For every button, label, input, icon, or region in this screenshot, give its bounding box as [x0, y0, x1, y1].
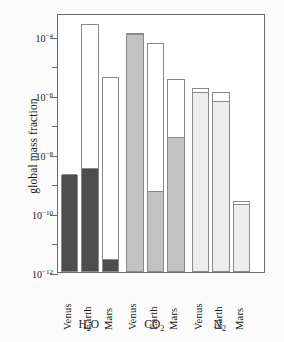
- y-tick-label: 10−4: [36, 32, 53, 44]
- bar-fill-n2-mars: [234, 204, 250, 271]
- bar-fill-n2-earth: [213, 101, 229, 271]
- y-axis-title: global mass fraction: [27, 36, 39, 256]
- bar-co2-earth: [147, 43, 165, 272]
- bar-h2o-mars: [102, 77, 120, 272]
- plot-area: 10−1210−1010−810−610−4: [57, 14, 265, 273]
- bar-fill-co2-earth: [148, 191, 164, 271]
- x-label-co2-venus: Venus: [127, 303, 138, 330]
- bar-fill-h2o-venus: [62, 174, 78, 271]
- y-tick-minor: [52, 185, 58, 186]
- y-tick-label: 10−8: [36, 150, 53, 162]
- y-tick-label: 10−10: [32, 209, 53, 221]
- y-tick-label: 10−12: [32, 268, 53, 280]
- group-label-h2o: H2O: [78, 318, 99, 333]
- bar-fill-h2o-mars: [103, 259, 119, 271]
- x-label-n2-mars: Mars: [234, 308, 245, 330]
- bar-co2-venus: [126, 33, 144, 272]
- bar-co2-mars: [167, 79, 185, 272]
- x-label-h2o-venus: Venus: [62, 303, 73, 330]
- group-label-co2: CO2: [144, 318, 164, 333]
- group-label-n2: N2: [214, 318, 226, 333]
- bar-h2o-earth: [81, 24, 99, 272]
- x-label-co2-mars: Mars: [168, 308, 179, 330]
- figure-canvas: global mass fraction 10−1210−1010−810−61…: [0, 0, 284, 342]
- y-tick-minor: [52, 244, 58, 245]
- bar-n2-earth: [212, 92, 230, 272]
- y-tick-minor: [52, 126, 58, 127]
- y-tick-label: 10−6: [36, 91, 53, 103]
- bar-fill-n2-venus: [193, 92, 209, 271]
- bar-n2-mars: [233, 201, 251, 272]
- x-label-h2o-mars: Mars: [103, 308, 114, 330]
- x-label-n2-venus: Venus: [193, 303, 204, 330]
- bar-fill-co2-venus: [127, 34, 143, 271]
- y-tick-minor: [52, 67, 58, 68]
- bar-fill-co2-mars: [168, 137, 184, 271]
- bar-fill-h2o-earth: [82, 168, 98, 271]
- bar-h2o-venus: [61, 175, 79, 272]
- bar-n2-venus: [192, 88, 210, 272]
